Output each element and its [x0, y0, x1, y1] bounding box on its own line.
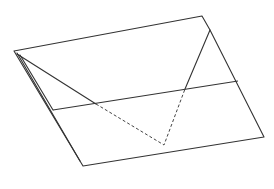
flap-right-edge — [185, 30, 210, 89]
flap-hidden-dashed — [96, 89, 185, 145]
horizontal-crease — [53, 81, 238, 110]
inner-left-edge-2 — [20, 55, 53, 110]
fold-diagram-svg — [0, 0, 274, 189]
paper-outline — [14, 16, 264, 166]
flap-left-edge — [17, 54, 96, 104]
origami-diagram — [0, 0, 274, 189]
